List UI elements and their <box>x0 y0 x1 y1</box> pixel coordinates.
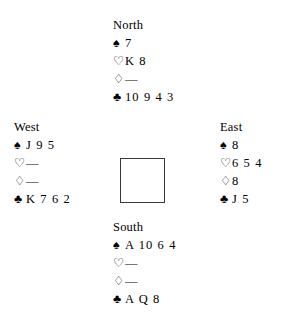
hand-north: North ♠ 7 ♡ K 8 ♢ — ♣ 10 9 4 3 <box>113 16 174 106</box>
north-club-row: ♣ 10 9 4 3 <box>113 88 174 106</box>
east-club-row: ♣ J 5 <box>220 190 263 208</box>
north-spade-row: ♠ 7 <box>113 34 174 52</box>
east-spade-row: ♠ 8 <box>220 136 263 154</box>
hand-label-south: South <box>113 218 177 236</box>
west-spade-row: ♠ J 9 5 <box>14 136 71 154</box>
heart-icon: ♡ <box>113 254 125 272</box>
west-diamond-row: ♢ — <box>14 172 71 190</box>
hand-label-north: North <box>113 16 174 34</box>
north-spades: 7 <box>125 34 132 52</box>
west-clubs: K 7 6 2 <box>26 190 71 208</box>
heart-icon: ♡ <box>14 154 26 172</box>
spade-icon: ♠ <box>113 34 125 52</box>
heart-icon: ♡ <box>220 154 232 172</box>
bridge-deal-diagram: North ♠ 7 ♡ K 8 ♢ — ♣ 10 9 4 3 West ♠ J … <box>0 0 287 328</box>
club-icon: ♣ <box>113 290 125 308</box>
west-spades: J 9 5 <box>26 136 55 154</box>
north-clubs: 10 9 4 3 <box>125 88 174 106</box>
club-icon: ♣ <box>113 88 125 106</box>
spade-icon: ♠ <box>14 136 26 154</box>
club-icon: ♣ <box>220 190 232 208</box>
diamond-icon: ♢ <box>220 172 232 190</box>
club-icon: ♣ <box>14 190 26 208</box>
west-diamonds: — <box>26 172 39 190</box>
south-spade-row: ♠ A 10 6 4 <box>113 236 177 254</box>
east-hearts: 6 5 4 <box>232 154 263 172</box>
diamond-icon: ♢ <box>113 272 125 290</box>
east-heart-row: ♡ 6 5 4 <box>220 154 263 172</box>
east-diamonds: 8 <box>232 172 239 190</box>
south-hearts: — <box>125 254 138 272</box>
hand-label-east: East <box>220 118 263 136</box>
north-hearts: K 8 <box>125 52 147 70</box>
south-diamond-row: ♢ — <box>113 272 177 290</box>
diamond-icon: ♢ <box>113 70 125 88</box>
south-heart-row: ♡ — <box>113 254 177 272</box>
west-hearts: — <box>26 154 39 172</box>
south-club-row: ♣ A Q 8 <box>113 290 177 308</box>
north-diamond-row: ♢ — <box>113 70 174 88</box>
hand-west: West ♠ J 9 5 ♡ — ♢ — ♣ K 7 6 2 <box>14 118 71 208</box>
center-compass-box <box>120 158 165 203</box>
hand-south: South ♠ A 10 6 4 ♡ — ♢ — ♣ A Q 8 <box>113 218 177 308</box>
hand-label-west: West <box>14 118 71 136</box>
south-clubs: A Q 8 <box>125 290 160 308</box>
north-heart-row: ♡ K 8 <box>113 52 174 70</box>
east-diamond-row: ♢ 8 <box>220 172 263 190</box>
west-club-row: ♣ K 7 6 2 <box>14 190 71 208</box>
east-spades: 8 <box>232 136 239 154</box>
heart-icon: ♡ <box>113 52 125 70</box>
east-clubs: J 5 <box>232 190 250 208</box>
diamond-icon: ♢ <box>14 172 26 190</box>
west-heart-row: ♡ — <box>14 154 71 172</box>
hand-east: East ♠ 8 ♡ 6 5 4 ♢ 8 ♣ J 5 <box>220 118 263 208</box>
south-diamonds: — <box>125 272 138 290</box>
south-spades: A 10 6 4 <box>125 236 177 254</box>
spade-icon: ♠ <box>220 136 232 154</box>
spade-icon: ♠ <box>113 236 125 254</box>
north-diamonds: — <box>125 70 138 88</box>
